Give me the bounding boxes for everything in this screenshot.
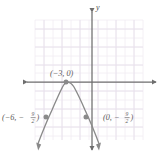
svg-text:(−6, −: (−6, − [2,113,24,122]
left-close-paren: ) [36,113,40,122]
right-fraction-denominator: 2 [126,118,129,124]
vertex-x-value: −3 [53,69,63,78]
right-close-paren: ) [130,113,134,122]
right-y-sign: − [114,113,120,122]
graph-figure: y (−3, 0) [0,0,165,155]
marked-point-left [44,115,49,120]
y-axis-label: y [95,3,100,12]
vertex-close-paren: ) [70,69,74,78]
curve-arrow-left [36,143,41,151]
svg-text:(−3, 0): (−3, 0) [50,69,74,78]
curve-arrow-right [96,143,101,151]
svg-text:(0, −: (0, − [103,113,119,122]
left-fraction-numerator: 9 [32,111,35,117]
marked-point-right [84,115,89,120]
label-vertex: (−3, 0) [50,69,74,78]
left-fraction-denominator: 2 [32,118,35,124]
left-y-sign: − [18,113,24,122]
marked-point-vertex [64,80,69,85]
right-fraction-numerator: 9 [126,111,129,117]
coordinate-plane-svg: y (−3, 0) [0,0,165,155]
label-right-point: (0, − 9 2 ) [103,111,134,124]
label-left-point: (−6, − 9 2 ) [2,111,40,124]
